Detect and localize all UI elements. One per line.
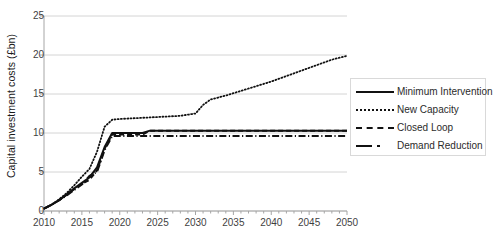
- y-tick-label: 10: [33, 128, 44, 138]
- legend-line-sample: [356, 91, 394, 93]
- y-axis-title: Capital investment costs (£bn): [0, 0, 22, 211]
- legend-item[interactable]: New Capacity: [355, 100, 483, 118]
- legend-swatch-dashed: [355, 121, 395, 133]
- x-tick-label: 2030: [184, 218, 206, 228]
- legend-swatch-dotted: [355, 103, 395, 115]
- y-axis-title-text: Capital investment costs (£bn): [5, 33, 17, 177]
- x-tick-label: 2020: [109, 218, 131, 228]
- legend-item[interactable]: Demand Reduction: [355, 136, 483, 154]
- x-tick-label: 2015: [71, 218, 93, 228]
- x-tick-label: 2050: [336, 218, 358, 228]
- legend-swatch-solid: [355, 85, 395, 97]
- legend-label: New Capacity: [397, 104, 459, 115]
- legend-line-sample: [356, 127, 394, 129]
- y-tick-label: 15: [33, 89, 44, 99]
- x-tick-label: 2010: [33, 218, 55, 228]
- x-tick-label: 2040: [260, 218, 282, 228]
- legend-item[interactable]: Closed Loop: [355, 118, 483, 136]
- legend-item[interactable]: Minimum Intervention: [355, 82, 483, 100]
- x-tick-label: 2025: [147, 218, 169, 228]
- y-tick-label: 0: [38, 206, 44, 216]
- y-tick-label: 20: [33, 50, 44, 60]
- x-tick-label: 2045: [298, 218, 320, 228]
- series-line-new-capacity: [44, 56, 347, 209]
- chart-legend: Minimum InterventionNew CapacityClosed L…: [350, 78, 486, 156]
- y-axis-tick-labels: 0510152025: [22, 0, 44, 246]
- legend-dash-segment: [356, 145, 372, 147]
- legend-line-sample: [356, 109, 394, 111]
- legend-label: Closed Loop: [397, 122, 453, 133]
- legend-dot-segment: [377, 145, 380, 147]
- y-tick-label: 5: [38, 167, 44, 177]
- legend-label: Demand Reduction: [397, 140, 483, 151]
- legend-swatch-dashdot: [355, 139, 395, 151]
- legend-label: Minimum Intervention: [397, 86, 493, 97]
- x-tick-label: 2035: [222, 218, 244, 228]
- y-tick-label: 25: [33, 11, 44, 21]
